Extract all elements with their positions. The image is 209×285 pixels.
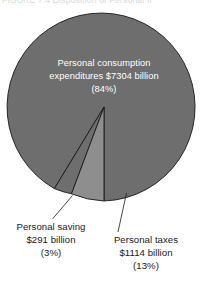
leader-line-personal-saving: [53, 196, 73, 220]
callout-personal-taxes-line1: Personal taxes: [114, 234, 178, 245]
slice-label-consumption-line3: (84%): [91, 84, 116, 94]
callout-personal-saving-line1: Personal saving: [16, 221, 85, 232]
pie-chart-figure: FIGURE 7.4 Disposition of Personal Incom…: [0, 0, 209, 285]
slice-label-consumption-line2: expenditures $7304 billion: [49, 71, 158, 81]
callout-personal-taxes-line3: (13%): [133, 260, 159, 271]
pie-chart-svg: Personal consumption expenditures $7304 …: [0, 0, 209, 285]
callout-personal-taxes-line2: $1114 billion: [119, 247, 172, 258]
callout-personal-saving-line3: (3%): [41, 247, 61, 258]
slice-label-consumption-line1: Personal consumption: [58, 58, 151, 68]
callout-personal-saving-line2: $291 billion: [26, 234, 75, 245]
